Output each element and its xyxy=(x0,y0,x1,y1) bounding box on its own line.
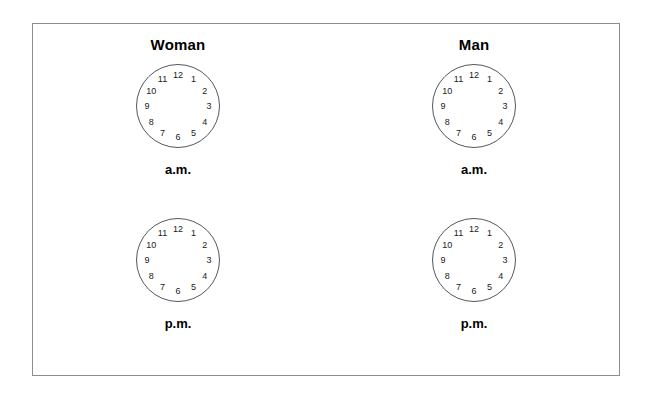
hour-numeral-11: 11 xyxy=(451,73,467,85)
hour-numeral-9: 9 xyxy=(435,254,451,266)
hour-numeral-1: 1 xyxy=(186,227,202,239)
column-woman: Woman 12 1 2 3 4 5 6 7 8 9 10 11 a.m. xyxy=(68,24,288,375)
hour-numeral-1: 1 xyxy=(482,227,498,239)
hour-numeral-5: 5 xyxy=(482,281,498,293)
period-label-am: a.m. xyxy=(68,162,288,177)
hour-numeral-7: 7 xyxy=(451,127,467,139)
hour-numeral-2: 2 xyxy=(493,239,509,251)
hour-numeral-11: 11 xyxy=(155,73,171,85)
hour-numeral-3: 3 xyxy=(201,254,217,266)
period-label-pm: p.m. xyxy=(68,316,288,331)
hour-numeral-5: 5 xyxy=(186,281,202,293)
figure-frame: Woman 12 1 2 3 4 5 6 7 8 9 10 11 a.m. xyxy=(32,23,620,376)
hour-numeral-5: 5 xyxy=(482,127,498,139)
hour-numeral-10: 10 xyxy=(439,239,455,251)
hour-numeral-11: 11 xyxy=(451,227,467,239)
hour-numeral-2: 2 xyxy=(197,239,213,251)
hour-numeral-6: 6 xyxy=(466,285,482,297)
hour-numeral-7: 7 xyxy=(155,281,171,293)
period-label-am: a.m. xyxy=(364,162,584,177)
clock-face-woman-am: 12 1 2 3 4 5 6 7 8 9 10 11 xyxy=(136,64,220,148)
hour-numeral-4: 4 xyxy=(197,270,213,282)
hour-numeral-2: 2 xyxy=(197,85,213,97)
column-man: Man 12 1 2 3 4 5 6 7 8 9 10 11 a.m. xyxy=(364,24,584,375)
column-header-woman: Woman xyxy=(68,36,288,53)
hour-numeral-1: 1 xyxy=(186,73,202,85)
hour-numeral-5: 5 xyxy=(186,127,202,139)
hour-numeral-3: 3 xyxy=(497,100,513,112)
hour-numeral-11: 11 xyxy=(155,227,171,239)
clock-face-woman-pm: 12 1 2 3 4 5 6 7 8 9 10 11 xyxy=(136,218,220,302)
hour-numeral-9: 9 xyxy=(139,100,155,112)
hour-numeral-4: 4 xyxy=(197,116,213,128)
hour-numeral-10: 10 xyxy=(439,85,455,97)
hour-numeral-6: 6 xyxy=(170,131,186,143)
hour-numeral-12: 12 xyxy=(170,69,186,81)
clock-cell-man-am: 12 1 2 3 4 5 6 7 8 9 10 11 a.m. xyxy=(364,64,584,148)
hour-numeral-12: 12 xyxy=(466,69,482,81)
hour-numeral-3: 3 xyxy=(497,254,513,266)
hour-numeral-9: 9 xyxy=(139,254,155,266)
hour-numeral-4: 4 xyxy=(493,270,509,282)
period-label-pm: p.m. xyxy=(364,316,584,331)
hour-numeral-7: 7 xyxy=(451,281,467,293)
hour-numeral-9: 9 xyxy=(435,100,451,112)
hour-numeral-8: 8 xyxy=(143,270,159,282)
hour-numeral-8: 8 xyxy=(439,116,455,128)
column-header-man: Man xyxy=(364,36,584,53)
hour-numeral-3: 3 xyxy=(201,100,217,112)
clock-face-man-pm: 12 1 2 3 4 5 6 7 8 9 10 11 xyxy=(432,218,516,302)
hour-numeral-8: 8 xyxy=(143,116,159,128)
hour-numeral-1: 1 xyxy=(482,73,498,85)
hour-numeral-8: 8 xyxy=(439,270,455,282)
hour-numeral-6: 6 xyxy=(170,285,186,297)
clock-face-man-am: 12 1 2 3 4 5 6 7 8 9 10 11 xyxy=(432,64,516,148)
clock-cell-woman-am: 12 1 2 3 4 5 6 7 8 9 10 11 a.m. xyxy=(68,64,288,148)
clock-cell-woman-pm: 12 1 2 3 4 5 6 7 8 9 10 11 p.m. xyxy=(68,218,288,302)
hour-numeral-12: 12 xyxy=(170,223,186,235)
hour-numeral-10: 10 xyxy=(143,239,159,251)
hour-numeral-12: 12 xyxy=(466,223,482,235)
hour-numeral-6: 6 xyxy=(466,131,482,143)
clock-cell-man-pm: 12 1 2 3 4 5 6 7 8 9 10 11 p.m. xyxy=(364,218,584,302)
hour-numeral-4: 4 xyxy=(493,116,509,128)
hour-numeral-2: 2 xyxy=(493,85,509,97)
hour-numeral-7: 7 xyxy=(155,127,171,139)
hour-numeral-10: 10 xyxy=(143,85,159,97)
